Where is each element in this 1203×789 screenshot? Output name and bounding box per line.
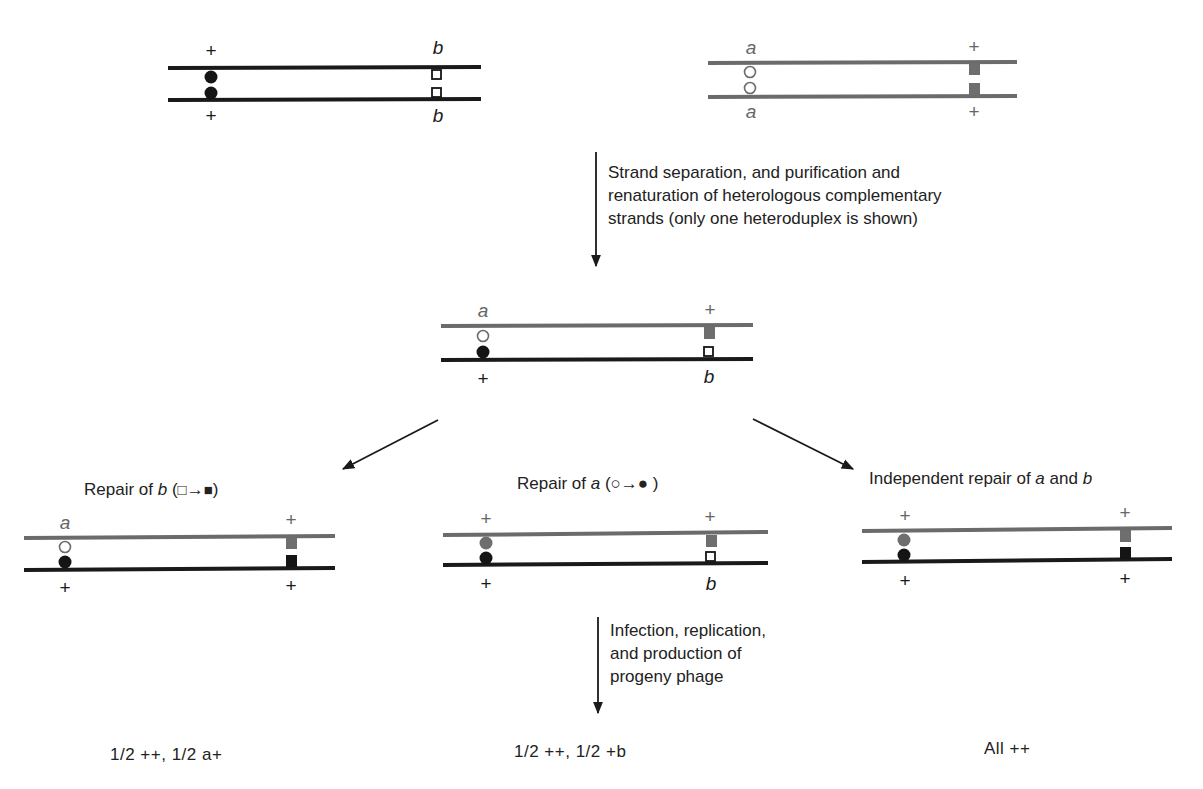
arrow-right-icon: → (187, 480, 204, 499)
label-plus: + (55, 578, 75, 598)
open-square-marker (704, 347, 713, 356)
label-plus: + (281, 576, 301, 596)
label-plus: + (964, 102, 984, 122)
filled-gray-circle-marker (480, 537, 493, 550)
caption-allele: b (158, 480, 167, 499)
strand-bottom (708, 96, 1017, 97)
step2-line: and production of (610, 642, 766, 665)
label-plus: + (476, 509, 496, 529)
diagram-canvas (0, 0, 1203, 789)
caption-independent-repair: Independent repair of a and b (869, 468, 1092, 490)
caption-text: Repair of (84, 480, 158, 499)
caption-text: ) (648, 474, 658, 493)
caption-text: ( (167, 480, 177, 499)
strand-bottom-black (443, 563, 768, 565)
open-square-marker (432, 88, 441, 97)
heteroduplex (441, 325, 753, 360)
caption-allele: b (1083, 469, 1092, 488)
caption-text: ( (600, 474, 610, 493)
product-repair-a (443, 532, 768, 565)
label-allele-a: a (741, 102, 761, 122)
strand-top-gray (24, 536, 335, 538)
filled-square-marker (706, 535, 717, 547)
label-plus: + (700, 300, 720, 320)
strand-top-gray (441, 325, 753, 326)
filled-square-icon: ■ (204, 481, 213, 498)
open-circle-marker (60, 542, 71, 553)
caption-allele: a (591, 474, 600, 493)
open-square-marker (706, 552, 715, 561)
step2-description: Infection, replication, and production o… (610, 619, 766, 688)
strand-top-gray (443, 532, 768, 535)
label-plus: + (700, 507, 720, 527)
label-allele-b: b (699, 367, 719, 387)
filled-square-marker (969, 63, 980, 75)
caption-text: and (1045, 469, 1083, 488)
label-plus: + (964, 37, 984, 57)
filled-square-marker (704, 327, 715, 339)
label-plus: + (895, 571, 915, 591)
filled-circle-marker (477, 346, 490, 359)
parent-duplex-1 (168, 67, 481, 100)
caption-repair-a: Repair of a (○→● ) (517, 473, 659, 495)
parent-duplex-2 (708, 62, 1017, 97)
arrow-right-icon: → (621, 474, 638, 493)
step2-line: Infection, replication, (610, 619, 766, 642)
open-circle-marker (478, 331, 489, 342)
open-circle-icon: ○ (611, 474, 621, 493)
step2-line: progeny phage (610, 665, 766, 688)
open-square-marker (432, 70, 441, 79)
label-allele-b: b (428, 38, 448, 58)
filled-circle-marker (898, 549, 911, 562)
outcome-repair-a: 1/2 ++, 1/2 +b (514, 741, 626, 763)
filled-gray-circle-marker (898, 534, 911, 547)
strand-bottom-black (24, 568, 335, 570)
label-plus: + (1115, 503, 1135, 523)
label-plus: + (1115, 569, 1135, 589)
filled-circle-marker (205, 87, 218, 100)
step1-line: strands (only one heteroduplex is shown) (608, 207, 942, 230)
strand-top (708, 62, 1017, 63)
filled-square-marker (969, 83, 980, 95)
filled-circle-marker (480, 552, 493, 565)
product-independent-repair (862, 528, 1172, 562)
strand-bottom-black (441, 359, 753, 360)
label-plus: + (473, 369, 493, 389)
arrow-branch-right (753, 419, 853, 469)
filled-square-marker (1120, 530, 1131, 542)
label-allele-b: b (701, 574, 721, 594)
arrow-branch-left (343, 420, 438, 469)
caption-allele: a (1035, 469, 1044, 488)
open-square-icon: □ (178, 481, 187, 498)
label-allele-a: a (473, 301, 493, 321)
step1-description: Strand separation, and purification and … (608, 161, 942, 230)
label-plus: + (476, 574, 496, 594)
label-allele-b: b (428, 106, 448, 126)
step1-line: Strand separation, and purification and (608, 161, 942, 184)
filled-square-marker (286, 538, 297, 549)
filled-square-marker (1120, 547, 1131, 559)
filled-square-marker (286, 555, 297, 567)
strand-bottom (168, 99, 481, 100)
label-plus: + (201, 41, 221, 61)
caption-text: Independent repair of (869, 469, 1035, 488)
caption-text: ) (213, 480, 219, 499)
strand-top (168, 67, 481, 68)
label-plus: + (895, 506, 915, 526)
open-circle-marker (745, 67, 756, 78)
label-allele-a: a (55, 513, 75, 533)
filled-circle-marker (59, 556, 72, 569)
open-circle-marker (745, 83, 756, 94)
product-repair-b (24, 536, 335, 570)
step1-line: renaturation of heterologous complementa… (608, 184, 942, 207)
label-allele-a: a (741, 38, 761, 58)
outcome-repair-b: 1/2 ++, 1/2 a+ (110, 744, 222, 766)
outcome-independent-repair: All ++ (984, 738, 1030, 760)
caption-repair-b: Repair of b (□→■) (84, 479, 218, 501)
caption-text: Repair of (517, 474, 591, 493)
label-plus: + (201, 106, 221, 126)
filled-circle-marker (205, 71, 218, 84)
label-plus: + (281, 510, 301, 530)
filled-circle-icon: ● (638, 474, 648, 493)
